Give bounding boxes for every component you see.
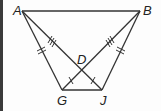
label-A: A bbox=[12, 3, 22, 18]
segment-AJ bbox=[22, 11, 102, 90]
segment-BG bbox=[62, 11, 140, 90]
label-J: J bbox=[99, 93, 107, 108]
diagram-canvas: A B G J D bbox=[0, 0, 161, 111]
label-B: B bbox=[143, 3, 152, 18]
segment-BJ bbox=[102, 11, 140, 90]
label-G: G bbox=[57, 93, 67, 108]
label-D: D bbox=[77, 52, 86, 67]
geometry-figure: A B G J D bbox=[0, 0, 161, 111]
segment-AG bbox=[22, 11, 62, 90]
